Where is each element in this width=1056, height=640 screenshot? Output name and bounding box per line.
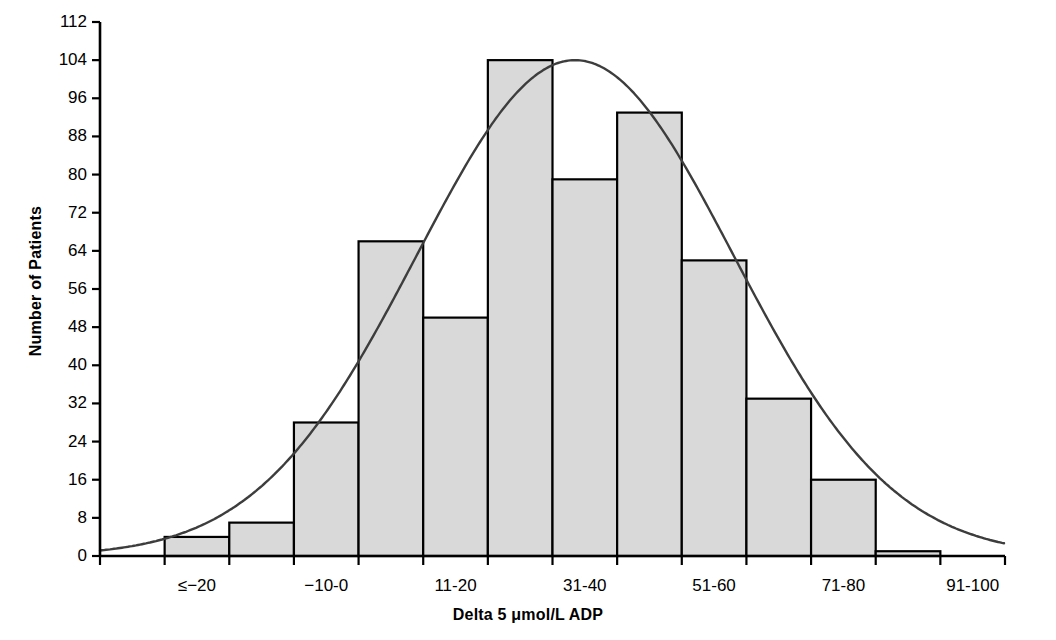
histogram-bar bbox=[229, 523, 294, 556]
histogram-bar bbox=[811, 480, 876, 556]
chart-plot-area bbox=[0, 0, 1056, 640]
histogram-bar bbox=[423, 318, 488, 556]
histogram-bar bbox=[682, 260, 747, 556]
histogram-bar bbox=[617, 113, 682, 556]
histogram-bar bbox=[359, 241, 424, 556]
histogram-bar bbox=[165, 537, 230, 556]
histogram-figure: Number of Patients Delta 5 μmol/L ADP 08… bbox=[0, 0, 1056, 640]
bars-group bbox=[165, 60, 941, 556]
histogram-bar bbox=[488, 60, 553, 556]
histogram-bar bbox=[746, 399, 811, 556]
histogram-bar bbox=[553, 179, 618, 556]
